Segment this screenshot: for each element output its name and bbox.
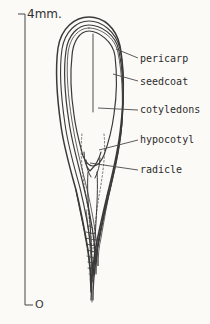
scale-bottom-label: O <box>35 299 44 310</box>
leader-cotyledons <box>98 108 138 110</box>
pericarp-outline-inner <box>61 21 124 282</box>
cotyledons-outline <box>71 31 116 166</box>
label-pericarp: pericarp <box>140 54 188 64</box>
label-seedcoat: seedcoat <box>140 77 188 87</box>
leader-lines <box>90 49 138 170</box>
seed-drawing <box>57 17 124 302</box>
label-hypocotyl: hypocotyl <box>140 135 194 145</box>
scale-top-label: 4mm. <box>27 8 62 20</box>
figure-page: 4mm. O pericarp seedcoat cotyledons hypo… <box>0 0 210 324</box>
seed-diagram <box>0 0 210 324</box>
scale-bar <box>18 14 33 305</box>
label-radicle: radicle <box>140 165 182 175</box>
label-cotyledons: cotyledons <box>140 105 200 115</box>
